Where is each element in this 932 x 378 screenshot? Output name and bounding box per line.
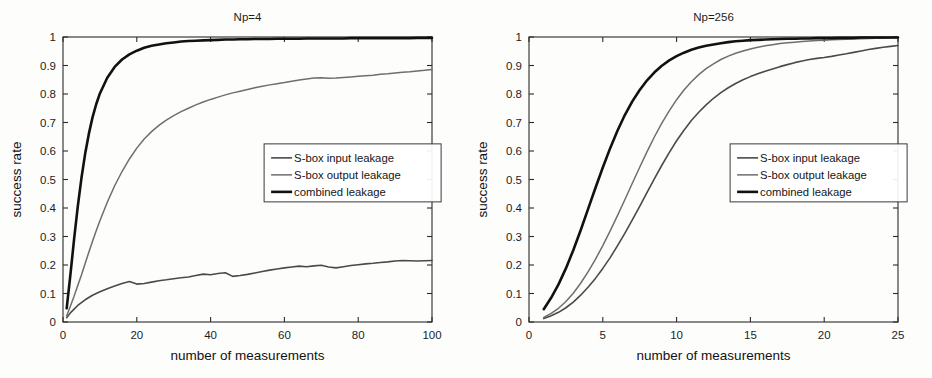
ytick-label-np256-0: 0 <box>516 316 522 328</box>
xtick-label-np4-5: 100 <box>422 329 441 341</box>
ytick-label-np256-10: 1 <box>516 31 522 43</box>
figure-root: Np=402040608010000.10.20.30.40.50.60.70.… <box>0 0 932 378</box>
ytick-label-np4-3: 0.3 <box>40 231 56 243</box>
legend-label-np4-sbox_output: S-box output leakage <box>294 169 401 181</box>
chart-svg-np256: Np=256051015202500.10.20.30.40.50.60.70.… <box>466 0 932 378</box>
xtick-label-np4-2: 40 <box>204 329 217 341</box>
xtick-label-np4-3: 60 <box>278 329 291 341</box>
xtick-label-np256-4: 20 <box>818 329 831 341</box>
ytick-label-np4-8: 0.8 <box>40 88 56 100</box>
xaxis-title-np4: number of measurements <box>171 348 325 363</box>
ytick-label-np256-2: 0.2 <box>506 259 522 271</box>
legend-label-np4-combined: combined leakage <box>294 186 386 198</box>
ytick-label-np256-9: 0.9 <box>506 60 522 72</box>
ytick-label-np4-10: 1 <box>50 31 56 43</box>
xtick-label-np4-4: 80 <box>352 329 365 341</box>
ytick-label-np256-3: 0.3 <box>506 231 522 243</box>
series-line-np4-sbox_input <box>67 260 432 317</box>
ytick-label-np4-5: 0.5 <box>40 174 56 186</box>
chart-panel-np4: Np=402040608010000.10.20.30.40.50.60.70.… <box>0 0 466 378</box>
legend-label-np256-sbox_input: S-box input leakage <box>760 152 860 164</box>
ytick-label-np4-4: 0.4 <box>40 202 57 214</box>
panel-title-np256: Np=256 <box>693 11 734 23</box>
legend-label-np4-sbox_input: S-box input leakage <box>294 152 394 164</box>
yaxis-title-np256: success rate <box>475 142 490 218</box>
chart-svg-np4: Np=402040608010000.10.20.30.40.50.60.70.… <box>0 0 466 378</box>
xtick-label-np256-2: 10 <box>670 329 683 341</box>
ytick-label-np4-0: 0 <box>50 316 56 328</box>
xtick-label-np4-1: 20 <box>130 329 143 341</box>
ytick-label-np4-2: 0.2 <box>40 259 56 271</box>
ytick-label-np4-1: 0.1 <box>40 288 56 300</box>
xtick-label-np256-5: 25 <box>892 329 905 341</box>
xtick-label-np256-1: 5 <box>600 329 606 341</box>
ytick-label-np4-9: 0.9 <box>40 60 56 72</box>
ytick-label-np256-8: 0.8 <box>506 88 522 100</box>
ytick-label-np256-7: 0.7 <box>506 117 522 129</box>
legend-label-np256-combined: combined leakage <box>760 186 852 198</box>
ytick-label-np4-6: 0.6 <box>40 145 56 157</box>
legend-label-np256-sbox_output: S-box output leakage <box>760 169 867 181</box>
xtick-label-np256-0: 0 <box>526 329 532 341</box>
ytick-label-np256-4: 0.4 <box>506 202 523 214</box>
xaxis-title-np256: number of measurements <box>637 348 791 363</box>
yaxis-title-np4: success rate <box>9 142 24 218</box>
panel-title-np4: Np=4 <box>234 11 262 23</box>
xtick-label-np4-0: 0 <box>60 329 66 341</box>
ytick-label-np256-1: 0.1 <box>506 288 522 300</box>
xtick-label-np256-3: 15 <box>744 329 757 341</box>
ytick-label-np4-7: 0.7 <box>40 117 56 129</box>
chart-panel-np256: Np=256051015202500.10.20.30.40.50.60.70.… <box>466 0 932 378</box>
ytick-label-np256-6: 0.6 <box>506 145 522 157</box>
ytick-label-np256-5: 0.5 <box>506 174 522 186</box>
